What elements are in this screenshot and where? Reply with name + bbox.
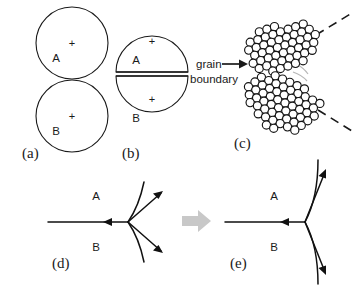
panel-e-lower-branch-arrowhead: [319, 266, 327, 276]
panel-d-lower-curved-boundary: [128, 222, 144, 262]
panel-e-upper-branch-arrowhead: [319, 169, 327, 179]
panel-d-lower-branch-arrow-line: [128, 222, 161, 251]
panel-e-upper-curved-boundary: [305, 160, 318, 222]
atom-upper-grain: [308, 46, 316, 54]
atom-upper-grain: [310, 38, 318, 46]
atom-upper-grain: [299, 57, 307, 65]
atom-upper-grain: [284, 62, 292, 70]
panel-a-label: (a): [22, 145, 39, 162]
panel-c: (c): [234, 13, 352, 152]
atom-lower-grain: [270, 124, 278, 132]
panel-d-horizontal-arrowhead: [103, 218, 112, 226]
grain-boundary-annotation-line1: grain: [196, 58, 222, 70]
grain-boundary-annotation-line2: boundary: [190, 73, 238, 85]
atom-upper-grain: [276, 64, 284, 72]
grain-boundary-annotation: grain boundary: [190, 58, 248, 85]
panel-d-label: (d): [52, 255, 70, 272]
panel-b-grain-a-label: A: [132, 54, 140, 66]
panel-b-label: (b): [122, 145, 140, 162]
panel-d-grain-b-label: B: [92, 241, 100, 253]
panel-a: + A + B (a): [22, 7, 108, 162]
panel-c-upper-grain-lattice: [245, 20, 320, 75]
panel-c-dashed-boundary-lower: [318, 110, 352, 131]
panel-a-grain-b-center-mark: +: [69, 110, 75, 122]
figure-root: + A + B (a) + A + B (b) grain boundary: [0, 0, 357, 289]
panel-c-label: (c): [234, 135, 251, 152]
panel-b: + A + B (b): [116, 35, 188, 162]
panel-c-lower-grain-lattice: [244, 72, 324, 134]
panel-d-grain-a-label: A: [92, 190, 100, 202]
panel-e-horizontal-arrowhead: [280, 218, 289, 226]
transition-arrow-shape: [182, 210, 211, 232]
atom-upper-grain: [311, 31, 319, 39]
grain-boundary-pointer-arrow: [222, 60, 248, 69]
panel-e-grain-a-label: A: [270, 190, 278, 202]
grain-boundary-figure: + A + B (a) + A + B (b) grain boundary: [0, 0, 357, 289]
panel-b-grain-a-center-mark: +: [149, 35, 155, 47]
atom-lower-grain: [291, 126, 299, 134]
panel-d-upper-branch-arrow-line: [128, 193, 161, 222]
panel-a-grain-a-label: A: [52, 52, 60, 64]
panel-c-dashed-boundary-upper: [316, 13, 352, 35]
panel-c-interface-hint-2: [293, 72, 307, 81]
transition-arrow: [182, 210, 211, 232]
panel-b-grain-b-center-mark: +: [149, 93, 155, 105]
panel-a-grain-b-label: B: [52, 125, 60, 137]
panel-d: A B (d): [48, 182, 163, 272]
atom-upper-grain: [301, 49, 309, 57]
panel-e-grain-b-label: B: [270, 241, 278, 253]
panel-e-lower-curved-boundary: [305, 222, 318, 284]
panel-e: A B (e): [225, 160, 326, 284]
panel-b-grain-b-label: B: [132, 112, 140, 124]
atom-upper-grain: [291, 59, 299, 67]
panel-d-upper-curved-boundary: [128, 182, 144, 222]
panel-e-label: (e): [230, 255, 247, 272]
panel-a-grain-a-center-mark: +: [69, 37, 75, 49]
atom-upper-grain: [255, 64, 263, 72]
